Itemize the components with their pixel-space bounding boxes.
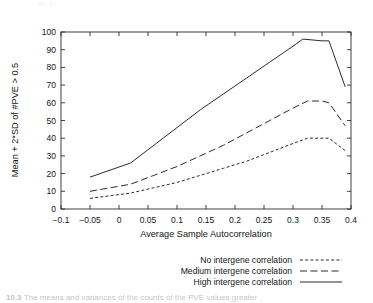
caption-number: 10.3 — [6, 293, 22, 302]
y-tick-label: 60 — [47, 98, 57, 108]
x-tick-label: −0.1 — [53, 215, 70, 225]
y-tick-label: 30 — [47, 151, 57, 161]
y-tick-label: 0 — [51, 204, 56, 214]
figure-caption: 10.3 The means and variances of the coun… — [6, 293, 371, 303]
x-tick-label: 0.05 — [140, 215, 157, 225]
x-tick-label: 0.35 — [314, 215, 331, 225]
x-axis-ticks — [61, 32, 351, 209]
x-tick-label: −0.05 — [79, 215, 101, 225]
legend-label-1: Medium intergene correlation — [181, 266, 293, 276]
x-tick-label: 0.1 — [171, 215, 183, 225]
series-line-1 — [90, 101, 345, 191]
y-axis-tick-labels: 0102030405060708090100 — [42, 27, 56, 214]
y-tick-label: 20 — [47, 169, 57, 179]
x-axis-title: Average Sample Autocorrelation — [140, 229, 272, 239]
y-tick-label: 10 — [47, 186, 57, 196]
x-tick-label: 0.2 — [229, 215, 241, 225]
y-tick-label: 40 — [47, 133, 57, 143]
y-tick-label: 90 — [47, 45, 57, 55]
series-line-2 — [90, 39, 345, 177]
x-axis-tick-labels: −0.1−0.0500.050.10.150.20.250.30.350.4 — [53, 215, 358, 225]
x-tick-label: 0.15 — [198, 215, 215, 225]
x-tick-label: 0.25 — [256, 215, 273, 225]
x-tick-label: 0 — [117, 215, 122, 225]
chart-legend: No intergene correlationMedium intergene… — [181, 255, 342, 287]
caption-body: The means and variances of the counts of… — [24, 293, 257, 302]
y-axis-title: Mean + 2*SD of #PVE > 0.5 — [10, 63, 20, 177]
y-tick-label: 100 — [42, 27, 56, 37]
plot-box — [61, 32, 351, 209]
plot-frame — [61, 32, 351, 209]
data-series-group — [90, 39, 345, 198]
legend-label-0: No intergene correlation — [200, 255, 292, 265]
y-tick-label: 80 — [47, 62, 57, 72]
x-tick-label: 0.3 — [287, 215, 299, 225]
x-tick-label: 0.4 — [345, 215, 357, 225]
y-tick-label: 70 — [47, 80, 57, 90]
y-tick-label: 50 — [47, 116, 57, 126]
y-axis-ticks — [61, 32, 351, 209]
legend-label-2: High intergene correlation — [194, 277, 293, 287]
series-line-0 — [90, 138, 345, 198]
